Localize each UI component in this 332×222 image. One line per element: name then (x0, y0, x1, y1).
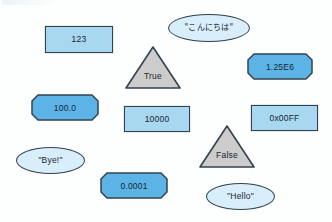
node-bool-true[interactable]: True (124, 45, 182, 90)
node-float-1-25e6[interactable]: 1.25E6 (247, 53, 313, 80)
triangle-icon (124, 45, 182, 90)
node-float-0-0001[interactable]: 0.0001 (100, 172, 168, 199)
triangle-icon (198, 124, 256, 169)
node-label: 0x00FF (269, 114, 299, 123)
node-float-100[interactable]: 100.0 (31, 94, 99, 121)
node-bool-false[interactable]: False (198, 124, 256, 169)
node-label: 10000 (145, 115, 170, 124)
node-label: "Bye!" (38, 156, 62, 165)
node-label: True (124, 71, 182, 81)
node-label: 100.0 (31, 94, 99, 121)
node-label: 1.25E6 (247, 53, 313, 80)
node-label: 123 (72, 35, 87, 44)
node-int-123[interactable]: 123 (45, 26, 113, 53)
node-label: 0.0001 (100, 172, 168, 199)
node-label: "こんにちは" (185, 24, 234, 32)
node-int-10000[interactable]: 10000 (124, 106, 190, 132)
node-string-konnichiwa[interactable]: "こんにちは" (168, 14, 250, 42)
diagram-canvas: 123 "こんにちは" True 1.25E6 100.0 10000 0x00… (0, 0, 332, 222)
node-string-hello[interactable]: "Hello" (206, 183, 275, 210)
node-label: False (198, 150, 256, 160)
scan-artifact (2, 0, 54, 5)
node-hex-0x00ff[interactable]: 0x00FF (251, 105, 318, 131)
node-label: "Hello" (227, 192, 254, 201)
node-string-bye[interactable]: "Bye!" (16, 147, 85, 174)
